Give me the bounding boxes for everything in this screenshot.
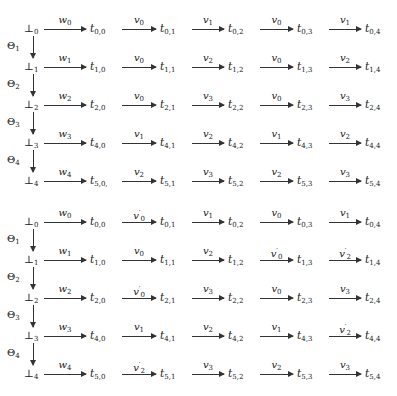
right-arrow-icon xyxy=(329,298,361,299)
subscript: 5,2 xyxy=(232,180,243,188)
arrow-label: v0 xyxy=(260,284,293,297)
subscript: 4,1 xyxy=(164,142,175,150)
arrow-label: v1 xyxy=(192,15,224,28)
subscript: 2 xyxy=(67,95,71,103)
symbol: ⊥ xyxy=(24,329,34,341)
symbol: ⊥ xyxy=(24,136,34,148)
right-arrow-icon xyxy=(44,67,86,68)
subscript: 1 xyxy=(209,212,213,220)
theta-label: Θ1 xyxy=(7,234,20,247)
subscript: 0,3 xyxy=(301,28,312,36)
right-arrow-icon xyxy=(192,67,224,68)
term-node: t4,3 xyxy=(297,329,312,345)
term-node: t1,3 xyxy=(297,60,312,76)
subscript: 1 xyxy=(67,57,71,65)
term-node: t0,4 xyxy=(365,22,380,38)
subscript: 4,0 xyxy=(94,335,105,343)
subscript: 0 xyxy=(140,291,144,299)
term-node: t0,4 xyxy=(365,215,380,231)
bottom-node: ⊥0 xyxy=(24,215,38,231)
subscript: 5,1 xyxy=(164,180,175,188)
theta-label: Θ2 xyxy=(7,272,20,285)
subscript: 0,1 xyxy=(164,221,175,229)
right-arrow-icon xyxy=(329,67,361,68)
subscript: 4 xyxy=(34,180,38,188)
right-arrow-icon xyxy=(329,105,361,106)
subscript: 2 xyxy=(15,83,19,91)
symbol: ⊥ xyxy=(24,291,34,303)
subscript: 0 xyxy=(34,28,38,36)
subscript: 4,4 xyxy=(369,142,380,150)
term-node: t5,2 xyxy=(228,367,243,383)
term-node: t1,0 xyxy=(90,253,105,269)
right-arrow-icon xyxy=(122,336,156,337)
down-arrow-icon xyxy=(33,36,34,58)
bottom-node: ⊥1 xyxy=(24,60,38,76)
subscript: 1 xyxy=(277,326,281,334)
subscript: 2 xyxy=(209,57,213,65)
term-node: t0,1 xyxy=(160,22,175,38)
arrow-label: v3 xyxy=(192,284,224,297)
subscript: 4,0 xyxy=(94,142,105,150)
term-node: t0,3 xyxy=(297,215,312,231)
term-node: t0,0 xyxy=(90,22,105,38)
arrow-label: w4 xyxy=(44,167,86,180)
subscript: 1 xyxy=(140,133,144,141)
arrow-label: w0 xyxy=(44,208,86,221)
symbol: w xyxy=(58,166,67,177)
subscript: 0 xyxy=(140,215,144,223)
right-arrow-icon xyxy=(44,143,86,144)
symbol: Θ xyxy=(7,233,15,244)
bottom-node: ⊥4 xyxy=(24,174,38,190)
term-node: t2,3 xyxy=(297,291,312,307)
bottom-node: ⊥3 xyxy=(24,136,38,152)
right-arrow-icon xyxy=(122,67,156,68)
symbol: ⊥ xyxy=(24,174,34,186)
down-arrow-icon xyxy=(33,343,34,365)
symbol: Θ xyxy=(7,347,15,358)
term-node: t4,1 xyxy=(160,329,175,345)
symbol: Θ xyxy=(7,309,15,320)
bottom-node: ⊥3 xyxy=(24,329,38,345)
term-node: t5,1 xyxy=(160,367,175,383)
subscript: 3 xyxy=(15,314,19,322)
subscript: 4 xyxy=(34,373,38,381)
subscript: 1,1 xyxy=(164,66,175,74)
symbol: Θ xyxy=(7,78,15,89)
subscript: 1 xyxy=(34,66,38,74)
subscript: 1 xyxy=(15,45,19,53)
subscript: 2,2 xyxy=(232,104,243,112)
term-node: t5,0, xyxy=(90,174,108,190)
arrow-label: v1 xyxy=(122,129,156,142)
down-arrow-icon xyxy=(33,112,34,134)
right-arrow-icon xyxy=(44,298,86,299)
subscript: 0 xyxy=(277,57,281,65)
subscript: 2 xyxy=(34,104,38,112)
subscript: 2 xyxy=(140,171,144,179)
subscript: 3 xyxy=(15,121,19,129)
subscript: 4 xyxy=(15,159,19,167)
subscript: 2,4 xyxy=(369,104,380,112)
arrow-label: w1 xyxy=(44,53,86,66)
right-arrow-icon xyxy=(260,336,293,337)
arrow-label: v2 xyxy=(192,129,224,142)
arrow-label: v′0 xyxy=(122,284,156,300)
symbol: w xyxy=(58,245,67,256)
term-node: t2,2 xyxy=(228,291,243,307)
subscript: 1 xyxy=(15,238,19,246)
down-arrow-icon xyxy=(33,305,34,327)
arrow-label: v3 xyxy=(329,284,361,297)
term-node: t1,1 xyxy=(160,253,175,269)
down-arrow-icon xyxy=(33,74,34,96)
right-arrow-icon xyxy=(44,105,86,106)
subscript: 2 xyxy=(209,133,213,141)
subscript: 2,2 xyxy=(232,297,243,305)
subscript: 2,3 xyxy=(301,104,312,112)
arrow-label: v2 xyxy=(329,53,361,66)
arrow-label: v3 xyxy=(329,91,361,104)
symbol: w xyxy=(58,207,67,218)
term-node: t5,2 xyxy=(228,174,243,190)
term-node: t4,0 xyxy=(90,136,105,152)
subscript: 3 xyxy=(67,133,71,141)
arrow-label: v2 xyxy=(122,167,156,180)
